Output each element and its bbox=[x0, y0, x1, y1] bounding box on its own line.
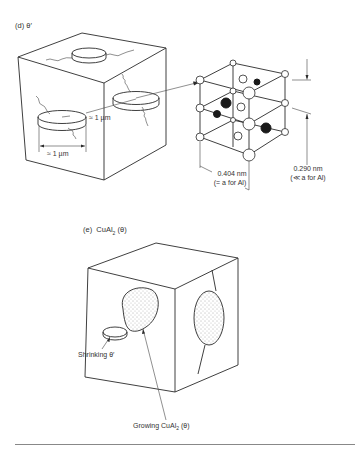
theta-prime-disc-top bbox=[46, 48, 134, 63]
panel-e-label: (e) CuAl2 (θ) bbox=[83, 226, 127, 236]
callout-growing-label: Growing CuAl2 (θ) bbox=[133, 422, 189, 431]
lattice-a-note: (= a for Al) bbox=[205, 179, 255, 186]
panel-e-prefix: (e) bbox=[83, 225, 92, 234]
callout-growing-suffix: (θ) bbox=[179, 422, 190, 429]
panel-e-formula: CuAl bbox=[96, 225, 112, 234]
lattice-a-value: 0.404 nm bbox=[207, 170, 257, 177]
panel-e-suffix: (θ) bbox=[115, 225, 126, 234]
panel-d-label: (d) θ′ bbox=[15, 22, 32, 30]
lattice-c-value: 0.290 nm bbox=[283, 165, 333, 172]
callout-growing-prefix: Growing CuAl bbox=[133, 422, 176, 429]
disc-thickness-label: ≈ 1 µm bbox=[89, 114, 111, 121]
matrix-cube-d bbox=[18, 33, 166, 180]
shrinking-theta-prime-disc bbox=[103, 327, 127, 340]
caption-divider bbox=[15, 444, 355, 445]
callout-shrinking-label: Shrinking θ′ bbox=[78, 351, 114, 358]
disc-diameter-label: ≈ 1 µm bbox=[47, 150, 69, 157]
theta-prime-disc-front bbox=[36, 96, 86, 152]
unit-cell-theta-prime bbox=[196, 60, 289, 161]
cropped-caption-text bbox=[0, 452, 358, 460]
figure-precipitation-sequence: (d) θ′ ≈ 1 µm ≈ 1 µm 0.404 nm (= a for A… bbox=[0, 0, 358, 460]
callout-lines-e bbox=[102, 329, 166, 420]
diagram-canvas bbox=[0, 0, 358, 460]
growing-theta-precipitate bbox=[122, 270, 224, 374]
lattice-c-note: (≪ a for Al) bbox=[281, 174, 335, 181]
